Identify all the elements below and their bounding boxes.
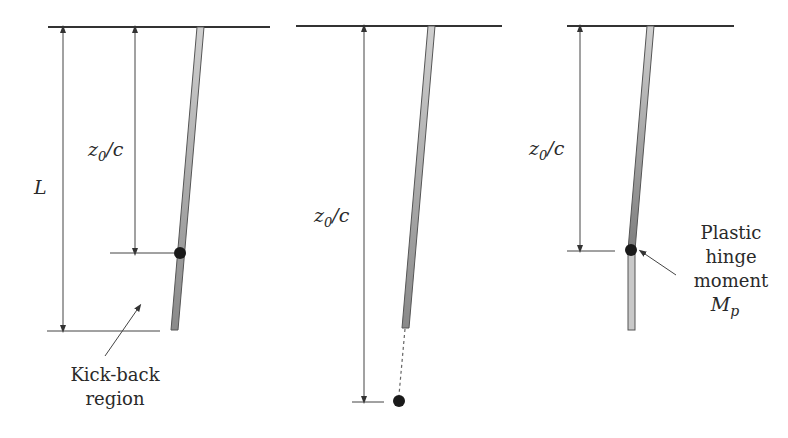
hinge-label-line3: moment xyxy=(694,270,769,291)
pile-diagram: L z0/c Kick-back region z0/c z0/c Plasti… xyxy=(0,0,788,438)
hinge-pointer-arrow xyxy=(642,252,676,275)
pile-extension-dashed xyxy=(399,329,405,395)
hinge-label-line2: hinge xyxy=(705,246,756,267)
length-label: L xyxy=(33,176,47,198)
panel-2: z0/c xyxy=(296,26,502,407)
hinge-label-line1: Plastic xyxy=(701,222,762,243)
pile xyxy=(402,26,435,328)
depth-label: z0/c xyxy=(313,204,350,230)
panel-1: L z0/c Kick-back region xyxy=(33,27,270,409)
kickback-label-line1: Kick-back xyxy=(70,364,160,385)
pile-upper-segment xyxy=(628,26,654,250)
plastic-hinge-dot xyxy=(174,247,186,259)
depth-label: z0/c xyxy=(528,137,565,163)
hinge-moment-symbol: Mp xyxy=(710,293,739,319)
depth-label: z0/c xyxy=(87,138,124,164)
kickback-label-line2: region xyxy=(86,388,145,409)
pile xyxy=(171,27,204,330)
panel-3: z0/c Plastic hinge moment Mp xyxy=(528,26,769,330)
plastic-hinge-dot xyxy=(625,244,637,256)
rotation-point-dot xyxy=(393,395,405,407)
pile-lower-segment xyxy=(628,250,635,330)
